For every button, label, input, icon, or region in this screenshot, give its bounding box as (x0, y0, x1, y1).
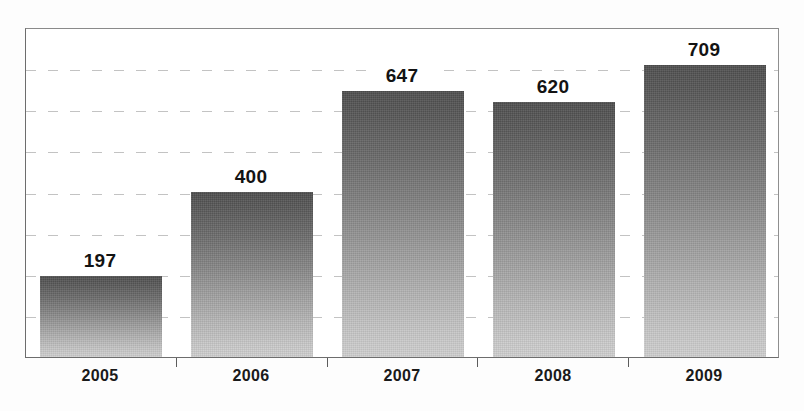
bar-chart: 197400647620709 20052006200720082009 (0, 0, 804, 411)
bar[interactable] (644, 65, 766, 357)
x-axis-label: 2006 (216, 366, 286, 386)
x-axis-label: 2005 (65, 366, 135, 386)
x-axis-label: 2009 (669, 366, 739, 386)
x-axis-label: 2007 (367, 366, 437, 386)
bar[interactable] (40, 276, 162, 357)
x-axis-label: 2008 (518, 366, 588, 386)
data-label: 647 (371, 65, 433, 87)
x-axis-category-labels: 20052006200720082009 (25, 366, 779, 392)
data-label: 400 (220, 166, 282, 188)
data-label: 620 (522, 76, 584, 98)
bar[interactable] (191, 192, 313, 357)
bar[interactable] (342, 91, 464, 357)
data-label: 197 (69, 250, 131, 272)
bar[interactable] (493, 102, 615, 357)
data-label: 709 (673, 39, 735, 61)
